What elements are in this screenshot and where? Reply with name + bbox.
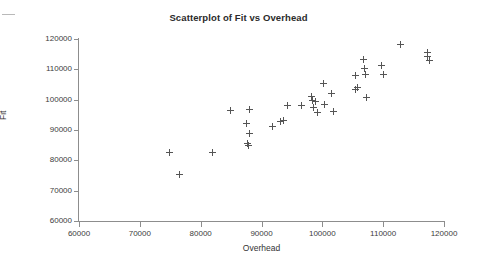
data-point <box>362 71 369 78</box>
x-tick-label: 110000 <box>353 229 413 238</box>
y-tick-label: 60000 <box>26 217 72 225</box>
data-point <box>426 57 433 64</box>
data-point <box>380 71 387 78</box>
data-point <box>321 101 328 108</box>
data-point <box>269 123 276 130</box>
x-tick-mark <box>383 222 384 227</box>
y-tick-label: 70000 <box>26 187 72 195</box>
data-point <box>354 84 361 91</box>
data-point <box>328 90 335 97</box>
data-point <box>280 117 287 124</box>
data-point <box>312 98 319 105</box>
x-tick-mark <box>444 222 445 227</box>
data-point <box>314 109 321 116</box>
data-point <box>176 171 183 178</box>
x-tick-label: 60000 <box>49 229 109 238</box>
x-tick-mark <box>79 222 80 227</box>
data-point <box>378 62 385 69</box>
x-tick-mark <box>262 222 263 227</box>
data-point <box>330 108 337 115</box>
x-tick-label: 100000 <box>292 229 352 238</box>
x-tick-mark <box>201 222 202 227</box>
x-tick-label: 80000 <box>171 229 231 238</box>
y-tick-label: 80000 <box>26 156 72 164</box>
y-tick-label-wrap: 80000 <box>22 156 72 164</box>
data-point <box>209 149 216 156</box>
y-tick-label-wrap: 70000 <box>22 187 72 195</box>
data-point <box>227 107 234 114</box>
y-tick-label-wrap: 120000 <box>22 35 72 43</box>
data-point <box>245 142 252 149</box>
y-tick-label: 120000 <box>26 35 72 43</box>
data-point <box>352 72 359 79</box>
x-tick-mark <box>322 222 323 227</box>
chart-title: Scatterplot of Fit vs Overhead <box>0 12 477 23</box>
plot-area <box>79 39 444 221</box>
y-axis-title: Fit <box>0 111 8 120</box>
data-point <box>166 149 173 156</box>
y-tick-label: 100000 <box>26 96 72 104</box>
x-axis-title: Overhead <box>79 243 444 253</box>
data-point <box>320 80 327 87</box>
y-tick-label-wrap: 60000 <box>22 217 72 225</box>
x-tick-label: 70000 <box>110 229 170 238</box>
data-point <box>243 120 250 127</box>
scatterplot-screenshot: Scatterplot of Fit vs Overhead Fit Overh… <box>0 0 477 264</box>
y-tick-label: 110000 <box>26 65 72 73</box>
data-point <box>360 56 367 63</box>
x-tick-label: 120000 <box>414 229 474 238</box>
data-point <box>298 102 305 109</box>
data-point <box>246 130 253 137</box>
y-tick-label-wrap: 100000 <box>22 96 72 104</box>
data-point <box>246 106 253 113</box>
y-tick-label: 90000 <box>26 126 72 134</box>
data-point <box>284 102 291 109</box>
x-tick-mark <box>140 222 141 227</box>
data-point <box>397 41 404 48</box>
y-tick-label-wrap: 110000 <box>22 65 72 73</box>
y-tick-label-wrap: 90000 <box>22 126 72 134</box>
x-tick-label: 90000 <box>232 229 292 238</box>
data-point <box>363 94 370 101</box>
